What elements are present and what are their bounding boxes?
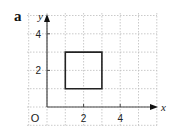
coordinate-plane: 2424xyO bbox=[0, 0, 172, 133]
x-tick-label: 4 bbox=[117, 113, 123, 124]
y-tick-label: 2 bbox=[35, 65, 41, 76]
x-axis-label: x bbox=[160, 101, 166, 113]
origin-label: O bbox=[31, 112, 40, 124]
x-tick-label: 2 bbox=[81, 113, 87, 124]
y-tick-label: 4 bbox=[35, 29, 41, 40]
y-axis-label: y bbox=[37, 10, 43, 22]
axes bbox=[44, 14, 158, 110]
